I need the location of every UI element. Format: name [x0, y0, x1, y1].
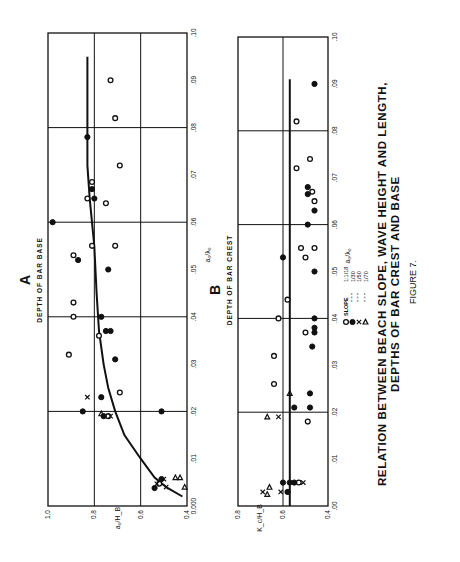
legend-title: SLOPE [343, 297, 349, 316]
data-point-open-circle [113, 243, 118, 248]
data-point-filled-circle [99, 314, 104, 319]
data-point-open-circle [276, 316, 281, 321]
trend-curve [87, 57, 182, 497]
caption-line-2: DEPTHS OF BAR CREST AND BASE [389, 176, 401, 392]
data-point-triangle [265, 414, 270, 419]
x-tick-label: .08 [331, 126, 338, 135]
figure-7: 0.000.01.02.03.04.05.06.07.08.09.100.40.… [0, 0, 460, 562]
data-point-filled-circle [312, 330, 317, 335]
legend-ditto: " " " [350, 293, 356, 302]
legend-marker-triangle [363, 319, 368, 324]
data-point-triangle [267, 485, 272, 490]
x-tick-label: .01 [331, 454, 338, 463]
data-point-open-circle [305, 419, 310, 424]
x-tick-label: 0.000 [190, 497, 197, 514]
x-tick-label: .08 [190, 123, 197, 132]
chart-a-xlabel: a₀/λ₀ [204, 247, 211, 262]
chart-b: .00.01.02.03.04.05.06.07.08.09.100.40.60… [234, 32, 338, 519]
chart-a-ylabel: a₀/H_B [114, 506, 122, 529]
chart-b-letter: B [207, 285, 223, 295]
data-point-open-circle [285, 297, 290, 302]
x-tick-label: .00 [331, 501, 338, 510]
x-tick-label: .07 [190, 170, 197, 179]
data-point-filled-circle [307, 405, 312, 410]
data-point-filled-circle [305, 184, 310, 189]
data-point-triangle [265, 492, 270, 497]
data-point-open-circle [303, 330, 308, 335]
data-point-open-circle [66, 352, 71, 357]
x-tick-label: .10 [331, 32, 338, 41]
x-tick-label: .03 [331, 360, 338, 369]
x-tick-label: .04 [190, 312, 197, 321]
data-point-open-circle [113, 116, 118, 121]
chart-a-title: DEPTH OF BAR BASE [36, 237, 43, 323]
data-point-triangle [173, 475, 178, 480]
data-point-filled-circle [307, 391, 312, 396]
data-point-open-circle [294, 119, 299, 124]
data-point-open-circle [272, 354, 277, 359]
data-point-open-circle [71, 300, 76, 305]
data-point-cross [276, 415, 280, 419]
data-point-open-circle [303, 255, 308, 260]
data-point-open-circle [90, 180, 95, 185]
data-point-filled-circle [312, 208, 317, 213]
data-point-filled-circle [305, 192, 310, 197]
data-point-filled-circle [108, 328, 113, 333]
data-point-filled-circle [312, 269, 317, 274]
data-point-filled-circle [99, 395, 104, 400]
data-point-filled-circle [285, 489, 290, 494]
chart-b-ylabel: K_c/H_B [256, 504, 264, 532]
x-tick-label: .05 [190, 265, 197, 274]
x-tick-label: .04 [331, 314, 338, 323]
legend-ditto: " " " [363, 293, 369, 302]
legend-marker-filled-circle [350, 319, 355, 324]
legend-label: 1/30 [350, 271, 356, 282]
data-point-open-circle [117, 390, 122, 395]
x-tick-label: .06 [331, 220, 338, 229]
data-point-filled-circle [50, 220, 55, 225]
data-point-filled-circle [292, 480, 297, 485]
chart-b-xlabel: a₀/λ₀ [344, 248, 351, 263]
x-tick-label: .02 [190, 407, 197, 416]
y-tick-label: 0.4 [324, 510, 331, 519]
data-point-filled-circle [280, 255, 285, 260]
legend-ditto: " " " [356, 293, 362, 302]
data-point-filled-circle [159, 409, 164, 414]
x-tick-label: .02 [331, 407, 338, 416]
data-point-filled-circle [310, 344, 315, 349]
data-point-triangle [178, 475, 183, 480]
data-point-open-circle [71, 253, 76, 258]
legend-label: 1:1/18 [343, 267, 349, 282]
data-point-filled-circle [152, 485, 157, 490]
data-point-open-circle [272, 382, 277, 387]
y-tick-label: 0.4 [183, 510, 190, 519]
caption-line-1: RELATION BETWEEN BEACH SLOPE, WAVE HEIGH… [376, 82, 388, 486]
data-point-filled-circle [113, 357, 118, 362]
data-point-filled-circle [292, 405, 297, 410]
data-point-filled-circle [305, 222, 310, 227]
data-point-filled-circle [106, 267, 111, 272]
data-point-filled-circle [76, 257, 81, 262]
legend-marker-cross [357, 320, 361, 324]
y-tick-label: 0.8 [90, 510, 97, 519]
data-point-filled-circle [312, 316, 317, 321]
legend-label: 1/50 [356, 271, 362, 282]
y-tick-label: 0.6 [279, 510, 286, 519]
figure-label: FIGURE 7. [408, 260, 418, 304]
y-tick-label: 0.8 [234, 510, 241, 519]
legend-marker-open-circle [344, 320, 349, 325]
data-point-filled-circle [89, 186, 94, 191]
x-tick-label: .10 [190, 28, 197, 37]
data-point-open-circle [117, 163, 122, 168]
data-point-open-circle [85, 196, 90, 201]
data-point-open-circle [108, 78, 113, 83]
y-tick-label: 0.6 [137, 510, 144, 519]
data-point-open-circle [308, 157, 313, 162]
x-tick-label: .09 [190, 75, 197, 84]
x-tick-label: .07 [331, 173, 338, 182]
chart-a: 0.000.01.02.03.04.05.06.07.08.09.100.40.… [44, 28, 197, 519]
data-point-open-circle [97, 333, 102, 338]
data-point-open-circle [104, 201, 109, 206]
data-point-open-circle [71, 314, 76, 319]
x-tick-label: .01 [190, 454, 197, 463]
